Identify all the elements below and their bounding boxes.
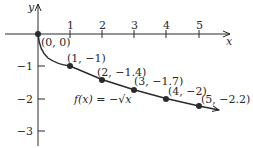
y-tick-label: −3 (17, 125, 33, 138)
function-graph: 1 2 3 4 5 −1 −2 −3 x y (0, 0) (1, −1) (2… (0, 0, 253, 148)
y-tick-label: −1 (17, 60, 33, 73)
y-axis-label: y (27, 1, 35, 14)
x-tick-label: 4 (163, 19, 170, 32)
x-tick-label: 3 (131, 19, 138, 32)
x-tick-label: 5 (196, 19, 203, 32)
x-tick-label: 1 (67, 19, 74, 32)
function-label: f(x) = −√x (73, 93, 132, 106)
point-label: (1, −1) (67, 52, 106, 65)
y-tick-label: −2 (17, 93, 33, 106)
x-tick-label: 2 (99, 19, 106, 32)
x-axis-label: x (226, 35, 233, 48)
point-label: (0, 0) (41, 36, 71, 49)
point-label: (5, −2.2) (201, 93, 250, 106)
y-ticks (38, 66, 45, 131)
